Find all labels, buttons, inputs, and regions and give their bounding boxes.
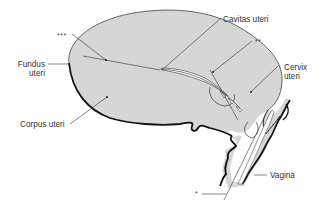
label-cavitas-uteri: Cavitas uteri (223, 15, 269, 24)
label-cervix-line1: Cervix (284, 63, 307, 72)
label-fundus-line2: uteri (16, 69, 45, 78)
label-double-star: ** (255, 37, 261, 46)
label-corpus-uteri: Corpus uteri (20, 120, 65, 129)
label-vagina: Vagina (270, 171, 295, 180)
label-triple-star: *** (57, 31, 67, 40)
label-cervix-line2: uteri (284, 72, 300, 81)
label-single-star: * (195, 189, 198, 198)
label-fundus-line1: Fundus (16, 60, 45, 69)
